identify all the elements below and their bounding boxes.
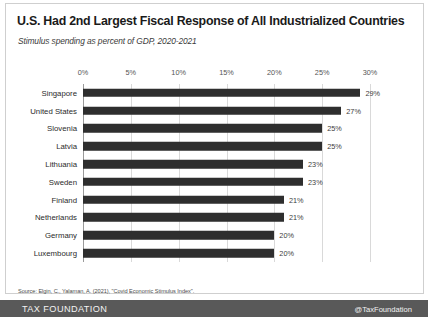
bar-value-label: 20% bbox=[279, 231, 294, 240]
bar-row: Slovenia25% bbox=[83, 120, 370, 138]
bar-row: Finland21% bbox=[83, 191, 370, 209]
category-label: Germany bbox=[45, 231, 77, 240]
bar bbox=[83, 160, 303, 169]
bar bbox=[83, 142, 322, 151]
bar bbox=[83, 195, 284, 204]
x-tick-label: 0% bbox=[78, 68, 89, 77]
bar-row: Latvia25% bbox=[83, 137, 370, 155]
bar bbox=[83, 249, 274, 258]
bar bbox=[83, 106, 341, 115]
category-label: Singapore bbox=[41, 88, 77, 97]
bar-row: Singapore29% bbox=[83, 84, 370, 102]
x-tick-label: 25% bbox=[315, 68, 330, 77]
bar-row: Sweden23% bbox=[83, 173, 370, 191]
x-tick-label: 20% bbox=[267, 68, 282, 77]
bar bbox=[83, 124, 322, 133]
bar-value-label: 23% bbox=[308, 160, 323, 169]
bar bbox=[83, 178, 303, 187]
tax-foundation-logo: TAX FOUNDATION bbox=[22, 304, 107, 314]
category-label: Luxembourg bbox=[34, 249, 77, 258]
bar-value-label: 25% bbox=[327, 142, 342, 151]
bar-value-label: 20% bbox=[279, 249, 294, 258]
bar-value-label: 21% bbox=[289, 195, 304, 204]
bar bbox=[83, 89, 360, 98]
bar-value-label: 23% bbox=[308, 177, 323, 186]
x-tick-label: 5% bbox=[126, 68, 137, 77]
bar-row: Germany20% bbox=[83, 226, 370, 244]
source-note: Source: Elgin, C., Yalaman, A. (2021), "… bbox=[18, 288, 194, 294]
chart-subtitle: Stimulus spending as percent of GDP, 202… bbox=[18, 36, 197, 46]
category-label: Lithuania bbox=[45, 160, 77, 169]
bar-row: Luxembourg20% bbox=[83, 244, 370, 262]
x-tick-label: 15% bbox=[219, 68, 234, 77]
gridline bbox=[370, 84, 371, 262]
category-label: Latvia bbox=[56, 142, 77, 151]
chart-title: U.S. Had 2nd Largest Fiscal Response of … bbox=[17, 15, 409, 29]
bar-row: United States27% bbox=[83, 102, 370, 120]
bar-value-label: 29% bbox=[365, 88, 380, 97]
bar-row: Lithuania23% bbox=[83, 155, 370, 173]
bar-value-label: 25% bbox=[327, 124, 342, 133]
category-label: Netherlands bbox=[35, 213, 77, 222]
x-tick-label: 30% bbox=[363, 68, 378, 77]
bar-value-label: 21% bbox=[289, 213, 304, 222]
bar-value-label: 27% bbox=[346, 106, 361, 115]
category-label: United States bbox=[30, 106, 77, 115]
plot-area: Singapore29%United States27%Slovenia25%L… bbox=[83, 84, 370, 262]
x-tick-label: 10% bbox=[171, 68, 186, 77]
category-label: Slovenia bbox=[47, 124, 77, 133]
bar bbox=[83, 213, 284, 222]
social-handle[interactable]: @TaxFoundation bbox=[354, 304, 412, 313]
category-label: Finland bbox=[51, 195, 77, 204]
bar-row: Netherlands21% bbox=[83, 209, 370, 227]
x-axis-tick-labels: 0%5%10%15%20%25%30% bbox=[83, 68, 370, 80]
footer-bar: TAX FOUNDATION @TaxFoundation bbox=[0, 300, 428, 317]
bar bbox=[83, 231, 274, 240]
category-label: Sweden bbox=[49, 177, 77, 186]
